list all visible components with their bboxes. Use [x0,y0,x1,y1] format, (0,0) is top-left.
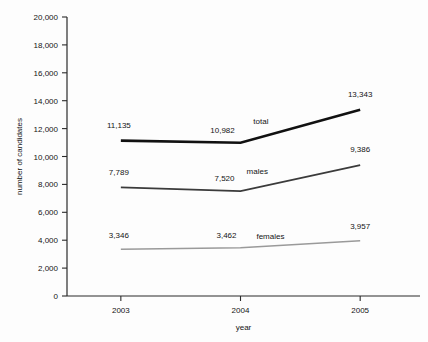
y-tick-label: 4,000 [38,236,59,245]
line-chart: 02,0004,0006,0008,00010,00012,00014,0001… [0,0,428,342]
y-tick-label: 14,000 [34,97,59,106]
series-lines [121,110,360,249]
y-tick-label: 8,000 [38,180,59,189]
data-point-labels: 11,13510,98213,3437,7897,5209,3863,3463,… [107,90,373,240]
x-axis-title: year [236,323,252,332]
series-line-total [121,110,360,143]
x-axis [67,296,420,301]
y-axis [62,17,67,296]
x-tick-label: 2003 [112,306,130,315]
y-tick-label: 16,000 [34,69,59,78]
y-tick-label: 6,000 [38,208,59,217]
y-axis-title: number of candidates [15,118,24,195]
value-label-females-2005: 3,957 [350,222,371,231]
series-label-total: total [253,117,268,126]
series-line-females [121,241,360,250]
y-tick-label: 20,000 [34,13,59,22]
value-label-total-2005: 13,343 [348,90,373,99]
value-label-males-2005: 9,386 [350,145,371,154]
y-tick-label: 0 [54,292,59,301]
y-tick-label: 10,000 [34,153,59,162]
x-tick-label: 2004 [232,306,250,315]
y-tick-label: 18,000 [34,41,59,50]
value-label-total-2004: 10,982 [210,126,235,135]
y-tick-label: 2,000 [38,264,59,273]
value-label-males-2003: 7,789 [109,168,130,177]
series-label-males: males [247,167,268,176]
value-label-females-2003: 3,346 [109,231,130,240]
y-tick-label: 12,000 [34,125,59,134]
chart-container: 02,0004,0006,0008,00010,00012,00014,0001… [0,0,428,342]
x-tick-labels: 200320042005 [112,306,370,315]
y-tick-labels: 02,0004,0006,0008,00010,00012,00014,0001… [34,13,59,301]
x-tick-label: 2005 [351,306,369,315]
value-label-females-2004: 3,462 [216,231,237,240]
axis-titles: yearnumber of candidates [15,118,252,332]
series-label-females: females [256,232,284,241]
value-label-total-2003: 11,135 [107,121,131,130]
value-label-males-2004: 7,520 [214,174,235,183]
series-line-males [121,165,360,191]
